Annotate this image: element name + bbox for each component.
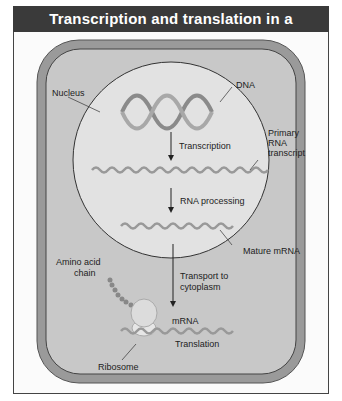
label-nucleus: Nucleus <box>52 88 85 98</box>
label-mrna: mRNA <box>172 316 199 326</box>
cell-diagram <box>0 0 342 401</box>
label-ribosome: Ribosome <box>98 362 139 372</box>
label-amino-acid-2: chain <box>74 268 96 278</box>
label-transport-2: cytoplasm <box>180 282 221 292</box>
label-mature-mrna: Mature mRNA <box>243 246 300 256</box>
label-translation: Translation <box>175 339 219 349</box>
label-primary-rna-3: transcript <box>268 148 305 158</box>
label-primary-rna-2: RNA <box>268 138 287 148</box>
label-dna: DNA <box>236 80 255 90</box>
label-transport-1: Transport to <box>180 271 228 281</box>
label-amino-acid-1: Amino acid <box>56 257 101 267</box>
label-primary-rna-1: Primary <box>268 128 299 138</box>
label-transcription: Transcription <box>179 141 231 151</box>
label-rna-processing: RNA processing <box>180 196 245 206</box>
